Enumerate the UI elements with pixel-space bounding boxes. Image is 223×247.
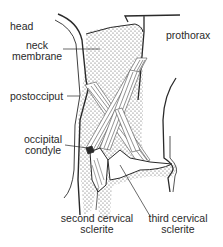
label-neck-membrane-line2: membrane	[12, 51, 62, 62]
label-third-cervical-line2: sclerite	[140, 224, 216, 235]
label-second-cervical-line2: sclerite	[56, 224, 138, 235]
occipital-condyle	[86, 146, 94, 154]
label-head: head	[10, 21, 33, 32]
label-occipital-condyle-line2: condyle	[20, 145, 66, 156]
label-postocciput: postocciput	[10, 91, 63, 102]
neck-anatomy-diagram: head neck membrane prothorax postocciput…	[0, 0, 223, 247]
label-prothorax: prothorax	[166, 30, 210, 41]
